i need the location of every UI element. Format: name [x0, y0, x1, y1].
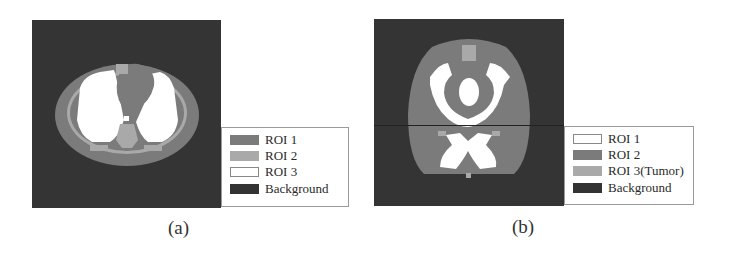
legend-item: ROI 3(Tumor): [573, 165, 684, 177]
legend-swatch: [573, 150, 602, 160]
legend-item: ROI 2: [573, 149, 640, 161]
legend-label: ROI 3(Tumor): [608, 165, 684, 177]
figure-panel-b: ROI 1 ROI 2 ROI 3(Tumor) Background (b): [0, 0, 729, 260]
legend-swatch: [573, 134, 602, 144]
legend-label: ROI 2: [608, 149, 640, 161]
legend-swatch: [573, 183, 602, 193]
legend-swatch: [573, 166, 602, 176]
head-segmentation-image: [374, 19, 564, 206]
scan-artifact-line: [374, 125, 564, 126]
legend-item: Background: [573, 182, 672, 194]
legend-label: ROI 1: [608, 133, 640, 145]
legend-item: ROI 1: [573, 133, 640, 145]
caption-b: (b): [512, 216, 534, 238]
legend-label: Background: [608, 182, 672, 194]
head-segmentation-graphic: [374, 19, 564, 206]
legend-b: ROI 1 ROI 2 ROI 3(Tumor) Background: [564, 126, 694, 205]
